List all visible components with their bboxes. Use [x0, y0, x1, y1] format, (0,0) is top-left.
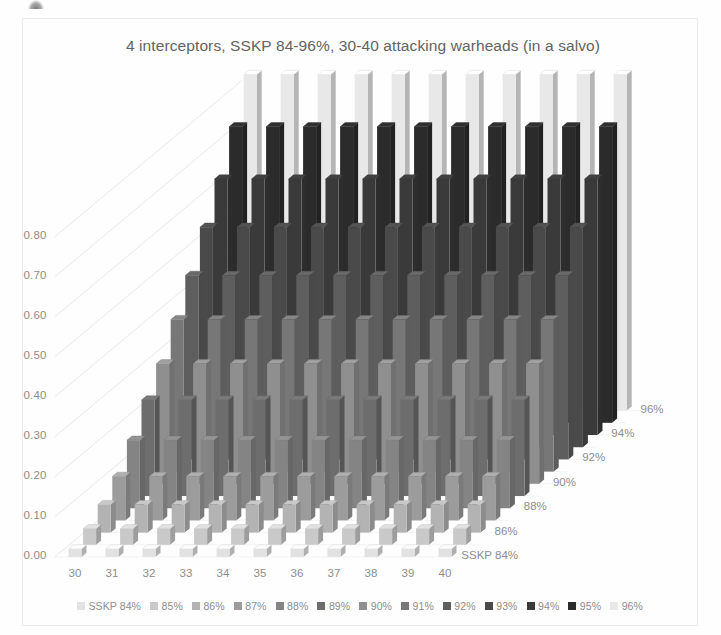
legend-item[interactable]: SSKP 84% [77, 600, 141, 612]
y-axis-tick: 0.80 [1, 229, 47, 241]
legend-swatch [192, 602, 200, 610]
legend-item[interactable]: 85% [150, 600, 183, 612]
y-axis-tick: 0.30 [1, 429, 47, 441]
legend-swatch [359, 602, 367, 610]
legend-label: 86% [203, 600, 224, 612]
legend-item[interactable]: 88% [276, 600, 309, 612]
legend-swatch [317, 602, 325, 610]
z-axis-tick: 94% [611, 427, 634, 439]
legend-label: 92% [454, 600, 475, 612]
legend-label: 89% [329, 600, 350, 612]
legend-item[interactable]: 86% [192, 600, 225, 612]
legend-swatch [527, 602, 535, 610]
legend-label: 94% [538, 600, 559, 612]
x-axis-tick: 30 [60, 567, 90, 579]
legend-item[interactable]: 89% [317, 600, 350, 612]
legend-label: 95% [580, 600, 601, 612]
plot-svg [23, 19, 699, 627]
chart-frame: 4 interceptors, SSKP 84-96%, 30-40 attac… [22, 18, 698, 626]
legend-swatch [485, 602, 493, 610]
z-axis-tick: 92% [582, 451, 605, 463]
legend-item[interactable]: 91% [401, 600, 434, 612]
legend-item[interactable]: 95% [568, 600, 601, 612]
legend-label: 96% [622, 600, 643, 612]
legend-swatch [568, 602, 576, 610]
legend-label: SSKP 84% [89, 600, 142, 612]
legend-swatch [401, 602, 409, 610]
y-axis-tick: 0.00 [1, 549, 47, 561]
x-axis-tick: 37 [319, 567, 349, 579]
chart-page: 4 interceptors, SSKP 84-96%, 30-40 attac… [0, 0, 721, 635]
x-axis-tick: 38 [356, 567, 386, 579]
x-axis-tick: 32 [134, 567, 164, 579]
legend-swatch [443, 602, 451, 610]
legend-label: 87% [245, 600, 266, 612]
legend-swatch [610, 602, 618, 610]
y-axis-tick: 0.40 [1, 389, 47, 401]
z-axis-tick: 88% [524, 500, 547, 512]
legend-item[interactable]: 93% [485, 600, 518, 612]
legend-swatch [150, 602, 158, 610]
y-axis-tick: 0.20 [1, 469, 47, 481]
plot-area: 0.800.700.600.500.400.300.200.100.00 303… [23, 19, 699, 627]
y-axis-tick: 0.70 [1, 269, 47, 281]
x-axis-tick: 31 [97, 567, 127, 579]
legend-swatch [234, 602, 242, 610]
x-axis-tick: 36 [282, 567, 312, 579]
legend-label: 93% [496, 600, 517, 612]
legend-item[interactable]: 90% [359, 600, 392, 612]
legend-item[interactable]: 94% [527, 600, 560, 612]
x-axis-tick: 34 [208, 567, 238, 579]
z-axis-tick: 86% [495, 525, 518, 537]
legend-swatch [77, 602, 85, 610]
chart-legend: SSKP 84%85%86%87%88%89%90%91%92%93%94%95… [22, 600, 698, 612]
x-axis-tick: 33 [171, 567, 201, 579]
legend-label: 90% [371, 600, 392, 612]
legend-label: 88% [287, 600, 308, 612]
y-axis-tick: 0.50 [1, 349, 47, 361]
scan-artifact [28, 0, 44, 9]
legend-item[interactable]: 92% [443, 600, 476, 612]
x-axis-tick: 39 [393, 567, 423, 579]
x-axis-tick: 35 [245, 567, 275, 579]
z-axis-tick: 90% [553, 476, 576, 488]
legend-item[interactable]: 87% [234, 600, 267, 612]
y-axis-tick: 0.60 [1, 309, 47, 321]
y-axis-tick: 0.10 [1, 509, 47, 521]
legend-label: 91% [413, 600, 434, 612]
legend-item[interactable]: 96% [610, 600, 643, 612]
z-axis-tick: SSKP 84% [461, 549, 518, 561]
legend-label: 85% [162, 600, 183, 612]
x-axis-tick: 40 [430, 567, 460, 579]
z-axis-tick: 96% [641, 403, 664, 415]
legend-swatch [276, 602, 284, 610]
